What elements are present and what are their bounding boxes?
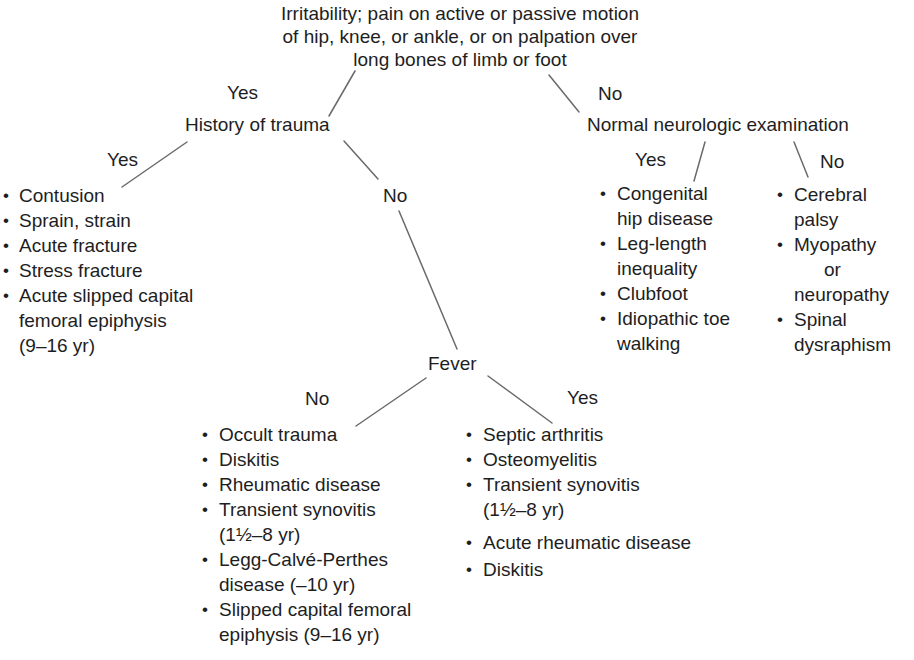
item-line: femoral epiphysis [19, 308, 193, 333]
fever-yes-label: Yes [567, 387, 598, 409]
list-item: Osteomyelitis [466, 447, 691, 472]
list-item: Sprain, strain [3, 208, 193, 233]
list-item: Legg-Calvé-Perthes disease (–10 yr) [202, 547, 411, 597]
item-line: Congenital [617, 181, 730, 206]
list-item: Leg-length inequality [600, 231, 730, 281]
item-line: (1½–8 yr) [483, 497, 691, 522]
item-line: Transient synovitis [219, 497, 411, 522]
list-item: Congenital hip disease [600, 181, 730, 231]
item-line: Acute fracture [19, 233, 193, 258]
item-line: (1½–8 yr) [219, 522, 411, 547]
list-item: Myopathy or neuropathy [777, 232, 891, 307]
item-line: Diskitis [219, 447, 411, 472]
list-item: Rheumatic disease [202, 472, 411, 497]
fever-yes-list: Septic arthritis Osteomyelitis Transient… [466, 422, 691, 582]
item-line: Clubfoot [617, 281, 730, 306]
item-line: disease (–10 yr) [219, 572, 411, 597]
item-line: Acute rheumatic disease [483, 530, 691, 555]
item-line: epiphysis (9–16 yr) [219, 622, 411, 647]
limb-pain-decision-tree: Irritability; pain on active or passive … [0, 0, 914, 660]
trauma-no-label: No [383, 185, 407, 207]
item-line: walking [617, 331, 730, 356]
list-item: Cerebral palsy [777, 182, 891, 232]
item-line: dysraphism [794, 332, 891, 357]
fever-no-list: Occult trauma Diskitis Rheumatic disease… [202, 422, 411, 647]
edge-fever-to-yes-list [488, 376, 552, 423]
neuro-yes-label: Yes [635, 149, 666, 171]
edge-no-label-to-fever [399, 211, 457, 349]
list-item: Diskitis [202, 447, 411, 472]
item-line: palsy [794, 207, 891, 232]
root-line: Irritability; pain on active or passive … [230, 2, 690, 25]
list-item: Diskitis [466, 557, 691, 582]
item-line: Myopathy [794, 232, 891, 257]
item-line: or [794, 257, 891, 282]
item-line: neuropathy [794, 282, 891, 307]
neuro-node-title: Normal neurologic examination [587, 114, 849, 136]
edge-fever-to-no-list [356, 378, 426, 426]
item-line: Slipped capital femoral [219, 597, 411, 622]
list-item: Spinal dysraphism [777, 307, 891, 357]
item-line: Idiopathic toe [617, 306, 730, 331]
list-item: Transient synovitis (1½–8 yr) [466, 472, 691, 522]
edge-trauma-to-no-label [344, 141, 378, 179]
edge-neuro-to-no-list [794, 142, 808, 177]
root-node: Irritability; pain on active or passive … [230, 2, 690, 71]
item-line: Diskitis [483, 557, 691, 582]
item-line: Legg-Calvé-Perthes [219, 547, 411, 572]
item-line: Contusion [19, 183, 193, 208]
edge-root-to-trauma [329, 71, 355, 116]
list-item: Transient synovitis (1½–8 yr) [202, 497, 411, 547]
item-line: Sprain, strain [19, 208, 193, 233]
edge-neuro-to-yes-list [694, 142, 705, 181]
list-item: Stress fracture [3, 258, 193, 283]
neuro-no-list: Cerebral palsy Myopathy or neuropathy Sp… [777, 182, 891, 357]
neuro-no-label: No [820, 151, 844, 173]
list-item: Clubfoot [600, 281, 730, 306]
list-item: Slipped capital femoral epiphysis (9–16 … [202, 597, 411, 647]
item-line: Acute slipped capital [19, 283, 193, 308]
trauma-node-title: History of trauma [185, 114, 330, 136]
list-item: Occult trauma [202, 422, 411, 447]
item-line: Occult trauma [219, 422, 411, 447]
list-item: Idiopathic toe walking [600, 306, 730, 356]
trauma-branch-yes-label: Yes [227, 82, 258, 104]
item-line: Osteomyelitis [483, 447, 691, 472]
item-line: hip disease [617, 206, 730, 231]
list-item: Septic arthritis [466, 422, 691, 447]
item-line: Leg-length [617, 231, 730, 256]
neuro-yes-list: Congenital hip disease Leg-length inequa… [600, 181, 730, 356]
item-line: inequality [617, 256, 730, 281]
list-item: Acute slipped capital femoral epiphysis … [3, 283, 193, 358]
root-line: of hip, knee, or ankle, or on palpation … [230, 25, 690, 48]
list-item: Contusion [3, 183, 193, 208]
item-line: Rheumatic disease [219, 472, 411, 497]
list-item: Acute fracture [3, 233, 193, 258]
item-line: Septic arthritis [483, 422, 691, 447]
list-item: Acute rheumatic disease [466, 530, 691, 555]
item-line: (9–16 yr) [19, 333, 193, 358]
item-line: Spinal [794, 307, 891, 332]
trauma-yes-label: Yes [107, 149, 138, 171]
item-line: Transient synovitis [483, 472, 691, 497]
fever-no-label: No [305, 388, 329, 410]
item-line: Stress fracture [19, 258, 193, 283]
edge-root-to-neuro [549, 75, 579, 112]
neuro-branch-no-label: No [598, 83, 622, 105]
fever-node-title: Fever [428, 353, 477, 375]
item-line: Cerebral [794, 182, 891, 207]
root-line: long bones of limb or foot [230, 48, 690, 71]
trauma-yes-list: Contusion Sprain, strain Acute fracture … [3, 183, 193, 358]
